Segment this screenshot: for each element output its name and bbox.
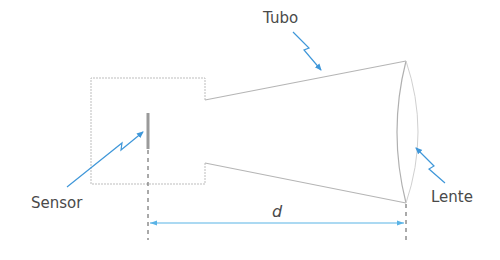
sensor-pointer-arrow bbox=[67, 132, 143, 187]
lens bbox=[397, 61, 418, 203]
sensor-label: Sensor bbox=[31, 194, 83, 212]
sensor-bar bbox=[147, 113, 150, 149]
lens-label: Lente bbox=[431, 188, 473, 206]
camera-diagram: d Tubo Sensor Lente bbox=[0, 0, 500, 260]
distance-label: d bbox=[272, 202, 283, 221]
tube bbox=[205, 61, 406, 203]
lens-pointer-arrow bbox=[416, 148, 445, 183]
tube-pointer-arrow bbox=[293, 32, 321, 70]
tube-label: Tubo bbox=[262, 9, 298, 27]
